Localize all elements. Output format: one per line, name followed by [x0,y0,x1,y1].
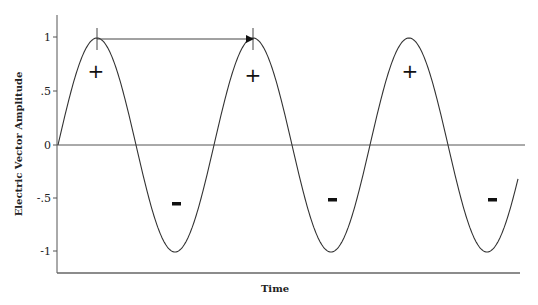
plus-sign: + [245,63,262,87]
minus-sign [488,198,497,202]
plus-sign: + [88,59,105,83]
minus-sign [328,198,337,202]
sine-wave-chart: 1 .5 0 -.5 -1 Electric Vector Amplitude … [0,0,538,305]
y-axis-title: Electric Vector Amplitude [13,72,24,217]
y-tick-label: -.5 [37,192,51,205]
y-tick-label: 0 [44,139,51,152]
minus-sign [172,202,181,206]
y-tick-label: .5 [41,85,52,98]
y-ticks [53,37,57,251]
plus-sign: + [402,59,419,83]
y-tick-label: -1 [40,245,51,258]
x-axis-title: Time [261,283,289,294]
y-tick-label: 1 [44,31,51,44]
